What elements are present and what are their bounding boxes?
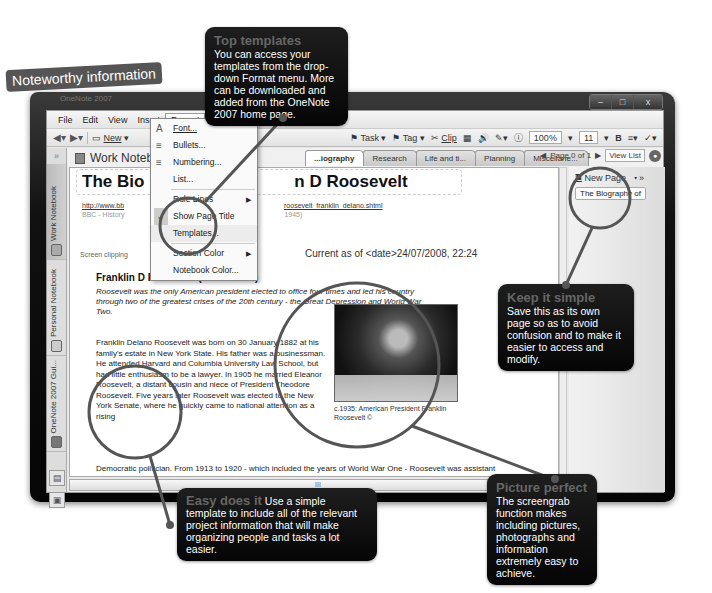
- callout-text: Save this as its own page so as to avoid…: [507, 305, 621, 365]
- submenu-arrow-icon: ▶: [246, 245, 251, 262]
- font-size-select[interactable]: 11: [579, 131, 598, 144]
- url-right: roosevelt_franklin_delano.shtml: [284, 202, 382, 209]
- spelling-icon[interactable]: ✓▾: [644, 133, 657, 143]
- unfiled-notes-icon[interactable]: ▤: [49, 470, 65, 486]
- notebook-personal[interactable]: Personal Notebook: [47, 260, 66, 356]
- callout-top-templates: Top templates You can access your templa…: [205, 27, 348, 126]
- all-notebooks-icon[interactable]: ▣: [49, 492, 65, 508]
- checkmark-icon: ✓: [154, 208, 168, 225]
- menu-separator: [171, 243, 255, 244]
- font-icon: A: [156, 120, 163, 137]
- page-counter: Page 0 of 1: [550, 151, 591, 160]
- notebook-label: Personal Notebook: [49, 269, 58, 337]
- menu-item-section-color[interactable]: Section Color▶: [151, 245, 257, 262]
- tab-life-and-times[interactable]: Life and ti...: [416, 150, 477, 166]
- audio-icon[interactable]: 🔊: [478, 133, 489, 143]
- numbering-icon: ≡: [156, 154, 162, 171]
- callout-text: The screengrab function makes including …: [496, 495, 580, 579]
- bullets-toolbar-icon[interactable]: ≡▾: [628, 133, 638, 143]
- callout-heading: Top templates: [214, 33, 339, 48]
- menu-label: Bullets...: [173, 140, 206, 150]
- view-list-button[interactable]: View List: [605, 149, 645, 162]
- current-as-of-date: Current as of <date>24/07/2008, 22:24: [305, 248, 477, 259]
- callout-pin-dot: [562, 281, 570, 289]
- notebook-label: OneNote 2007 Gui...: [49, 360, 58, 433]
- source-right: 1945): [284, 211, 302, 218]
- back-icon[interactable]: ◀▾: [53, 132, 66, 143]
- notebook-navbar: » Work Notebook Personal Notebook OneNot…: [47, 148, 67, 492]
- zoom-select[interactable]: 100%: [529, 131, 562, 144]
- callout-heading: Easy does it: [186, 493, 262, 508]
- new-page-label: New Page: [585, 173, 627, 183]
- menu-label: Font...: [173, 123, 197, 133]
- font-size-dropdown-icon[interactable]: ▾: [604, 133, 609, 143]
- menu-label: Rule Lines: [173, 194, 213, 204]
- window-title: OneNote 2007: [60, 94, 112, 103]
- prev-page-icon[interactable]: ◀: [540, 151, 546, 160]
- minimize-button[interactable]: –: [590, 95, 612, 109]
- maximize-button[interactable]: □: [612, 95, 634, 109]
- note-page[interactable]: The Bion D Roosevelt http://www.bbroosev…: [69, 167, 559, 477]
- callout-heading: Picture perfect: [496, 480, 588, 495]
- standard-toolbar: ◀▾ ▶▾ ▭ New ▾ ⚑ Task ▾ ⚑ Tag ▾ ✂ Clip ▦ …: [47, 129, 663, 147]
- notebook-guide[interactable]: OneNote 2007 Gui...: [47, 356, 66, 452]
- forward-icon[interactable]: ▶▾: [70, 132, 83, 143]
- url-left: http://www.bb: [82, 202, 124, 209]
- format-menu: AFont... ≡Bullets... ≡Numbering... List.…: [150, 118, 258, 281]
- zoom-dropdown-icon[interactable]: ▾: [568, 133, 573, 143]
- submenu-arrow-icon: ▶: [246, 191, 251, 208]
- menu-separator: [171, 189, 255, 190]
- menu-item-templates[interactable]: Templates...: [151, 225, 257, 242]
- menu-label: Show Page Title: [173, 211, 234, 221]
- screen-clipping-label: Screen clipping: [80, 251, 128, 258]
- source-left: BBC - History: [82, 211, 124, 218]
- callout-text: You can access your templates from the d…: [214, 48, 334, 120]
- bold-button[interactable]: B: [615, 133, 622, 143]
- tag-button[interactable]: ⚑ Tag ▾: [392, 133, 424, 143]
- menu-edit[interactable]: Edit: [78, 114, 104, 126]
- close-pane-icon[interactable]: ●: [649, 150, 661, 162]
- callout-picture-perfect: Picture perfect The screengrab function …: [487, 474, 597, 585]
- tab-research[interactable]: Research: [363, 150, 417, 166]
- callout-pin-dot: [551, 475, 559, 483]
- page-title-right: n D Roosevelt: [294, 172, 407, 191]
- menu-item-show-page-title[interactable]: ✓Show Page Title: [151, 208, 257, 225]
- photo-caption: c.1935: American President Franklin Roos…: [334, 404, 474, 422]
- menu-item-list[interactable]: List...: [151, 171, 257, 188]
- help-icon[interactable]: ⓘ: [514, 131, 523, 144]
- title-bar: OneNote 2007 – □ x: [30, 92, 675, 106]
- article-body: Franklin Delano Roosevelt was born on 30…: [96, 338, 326, 422]
- notebook-icon: [51, 436, 62, 448]
- close-button[interactable]: x: [634, 95, 662, 109]
- notebook-icon: [51, 244, 62, 256]
- new-page-button[interactable]: 🗎 New Page ▾ »: [575, 171, 644, 187]
- menu-item-bullets[interactable]: ≡Bullets...: [151, 137, 257, 154]
- new-button[interactable]: ▭ New ▾: [92, 133, 129, 143]
- collapse-nav-button[interactable]: »: [47, 148, 66, 164]
- tab-planning[interactable]: Planning: [475, 150, 526, 166]
- table-icon[interactable]: ▦: [463, 133, 472, 143]
- callout-easy-does-it: Easy does it Use a simple template to in…: [177, 488, 377, 561]
- notebook-work[interactable]: Work Notebook: [47, 164, 66, 260]
- clip-button[interactable]: ✂ Clip: [431, 133, 457, 143]
- tab-biography[interactable]: ...iography: [305, 150, 365, 166]
- menu-label: List...: [173, 174, 193, 184]
- menu-view[interactable]: View: [103, 114, 132, 126]
- task-button[interactable]: ⚑ Task ▾: [350, 133, 386, 143]
- callout-pin-dot: [279, 114, 287, 122]
- pen-icon[interactable]: ✎▾: [495, 133, 508, 143]
- menu-file[interactable]: File: [53, 114, 78, 126]
- notebook-icon: [51, 340, 62, 352]
- page-navigation: ◀ Page 0 of 1 ▶ View List ●: [540, 149, 661, 162]
- menu-item-notebook-color[interactable]: Notebook Color...: [151, 262, 257, 279]
- window-controls: – □ x: [589, 94, 663, 110]
- menu-item-numbering[interactable]: ≡Numbering...: [151, 154, 257, 171]
- callout-heading: Keep it simple: [507, 290, 625, 305]
- next-page-icon[interactable]: ▶: [595, 151, 601, 160]
- page-tab-biography[interactable]: The Biography of: [575, 187, 646, 200]
- roosevelt-photo[interactable]: [334, 304, 458, 402]
- bullets-icon: ≡: [156, 137, 162, 154]
- menu-label: Numbering...: [173, 157, 222, 167]
- menu-item-rule-lines[interactable]: Rule Lines▶: [151, 191, 257, 208]
- noteworthy-banner: Noteworthy information: [6, 62, 163, 92]
